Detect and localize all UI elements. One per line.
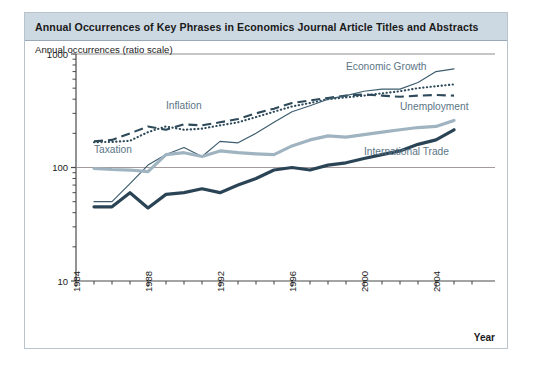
x-tick-label: 2000: [359, 271, 370, 292]
series-line-economic-growth: [94, 69, 454, 202]
plot-area: 100010010198419881992199620002004 Inflat…: [25, 41, 507, 349]
y-tick-label: 100: [52, 162, 68, 173]
series-line-international-trade: [94, 130, 454, 208]
data-series: [94, 69, 454, 208]
y-axis-title: Annual occurrences (ratio scale): [35, 44, 173, 55]
figure-title: Annual Occurrences of Key Phrases in Eco…: [35, 21, 479, 33]
series-label-economic-growth: Economic Growth: [346, 61, 426, 72]
series-label-unemployment: Unemployment: [400, 101, 469, 112]
x-tick-label: 1988: [143, 271, 154, 292]
figure-panel: Annual Occurrences of Key Phrases in Eco…: [24, 12, 508, 349]
figure-title-bar: Annual Occurrences of Key Phrases in Eco…: [25, 13, 507, 41]
y-tick-label: 10: [57, 276, 68, 287]
series-line-inflation: [94, 84, 454, 142]
line-chart-svg: 100010010198419881992199620002004 Inflat…: [25, 41, 507, 349]
x-tick-label: 1996: [287, 271, 298, 292]
series-label-inflation: Inflation: [166, 100, 202, 111]
series-label-taxation: Taxation: [94, 144, 132, 155]
x-tick-label: 1992: [215, 271, 226, 292]
x-tick-label: 1984: [71, 271, 82, 292]
x-axis-title: Year: [474, 332, 495, 343]
x-tick-label: 2004: [431, 271, 442, 292]
series-label-international-trade: International Trade: [364, 146, 449, 157]
